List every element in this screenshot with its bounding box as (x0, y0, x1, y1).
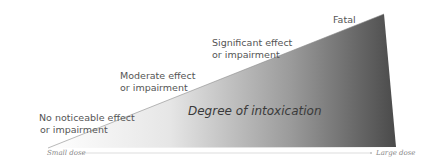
level-label-fatal: Fatal (333, 14, 356, 26)
level-label-line1: No noticeable effect (39, 112, 135, 124)
level-label-moderate: Moderate effect or impairment (120, 70, 195, 94)
level-label-line2: or impairment (212, 49, 292, 61)
axis-start-label: Small dose (47, 149, 86, 157)
center-label: Degree of intoxication (188, 104, 322, 118)
level-label-no-effect: No noticeable effect or impairment (39, 112, 135, 136)
axis-end-marker (370, 152, 372, 154)
level-label-line1: Moderate effect (120, 70, 195, 82)
level-label-line2: or impairment (120, 82, 195, 94)
level-label-line1: Significant effect (212, 37, 292, 49)
intoxication-diagram: No noticeable effect or impairment Moder… (0, 0, 428, 165)
level-label-line2: or impairment (39, 124, 135, 136)
triangle-graphic (0, 0, 428, 165)
axis-end-label: Large dose (376, 149, 415, 157)
level-label-significant: Significant effect or impairment (212, 37, 292, 61)
level-label-line1: Fatal (333, 14, 356, 26)
